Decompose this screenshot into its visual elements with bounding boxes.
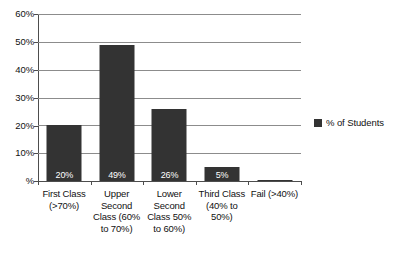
x-axis-label-line: Second: [139, 200, 199, 212]
x-axis-label-line: (>70%): [34, 200, 94, 212]
x-axis-tick-mark: [196, 181, 197, 185]
bar-slot: [248, 14, 301, 181]
legend-item-label: % of Students: [326, 118, 384, 128]
x-axis-label-line: Third Class: [192, 188, 252, 200]
y-axis-tick-label: 60%: [2, 9, 34, 19]
x-axis-label-line: Second: [87, 200, 147, 212]
x-axis-tick-mark: [248, 181, 249, 185]
y-axis: 60% 50% 40% 30% 20% 10% %: [0, 0, 34, 253]
bar-data-label: 20%: [47, 170, 82, 180]
bar-third-class: 5%: [205, 167, 240, 181]
x-axis-label-lower-second-class: Lower Second Class 50% to 60%): [139, 188, 199, 234]
x-axis-label-line: Upper: [87, 188, 147, 200]
bar-slot: 26%: [143, 14, 196, 181]
x-axis-label-line: Class 50%: [139, 211, 199, 223]
legend: % of Students: [314, 118, 384, 128]
y-axis-tick-label: %: [2, 176, 34, 186]
x-axis-tick-mark: [91, 181, 92, 185]
x-axis-baseline: [38, 181, 301, 182]
bar-series: 20% 49% 26% 5%: [38, 14, 301, 181]
bar-upper-second-class: 49%: [99, 45, 134, 181]
y-axis-tick-label: 20%: [2, 121, 34, 131]
bar-fail: [257, 180, 292, 181]
y-axis-tick-label: 50%: [2, 37, 34, 47]
x-axis-label-fail: Fail (>40%): [244, 188, 304, 200]
x-axis-label-line: Class (60%: [87, 211, 147, 223]
x-axis-label-line: to 70%): [87, 223, 147, 235]
x-axis-label-line: to 60%): [139, 223, 199, 235]
legend-swatch-icon: [314, 119, 322, 127]
bar-data-label: 49%: [99, 170, 134, 180]
bar-lower-second-class: 26%: [152, 109, 187, 181]
x-axis-tick-mark: [38, 181, 39, 185]
bar-data-label: 26%: [152, 170, 187, 180]
bar-slot: 20%: [38, 14, 91, 181]
x-axis-label-line: Fail (>40%): [244, 188, 304, 200]
x-axis-tick-mark: [143, 181, 144, 185]
bar-data-label: 5%: [205, 170, 240, 180]
x-axis-label-line: First Class: [34, 188, 94, 200]
x-axis-label-line: Lower: [139, 188, 199, 200]
bar-first-class: 20%: [47, 125, 82, 181]
x-axis-tick-mark: [301, 181, 302, 185]
x-axis-labels: First Class (>70%) Upper Second Class (6…: [38, 188, 301, 250]
bar-slot: 49%: [91, 14, 144, 181]
x-axis-label-first-class: First Class (>70%): [34, 188, 94, 211]
bar-chart: 60% 50% 40% 30% 20% 10% % 20%: [0, 0, 402, 253]
bar-slot: 5%: [196, 14, 249, 181]
y-axis-tick-label: 30%: [2, 93, 34, 103]
x-axis-label-line: (40% to: [192, 200, 252, 212]
y-axis-tick-label: 10%: [2, 148, 34, 158]
x-axis-label-third-class: Third Class (40% to 50%): [192, 188, 252, 223]
y-axis-tick-label: 40%: [2, 65, 34, 75]
x-axis-label-line: 50%): [192, 211, 252, 223]
x-axis-label-upper-second-class: Upper Second Class (60% to 70%): [87, 188, 147, 234]
